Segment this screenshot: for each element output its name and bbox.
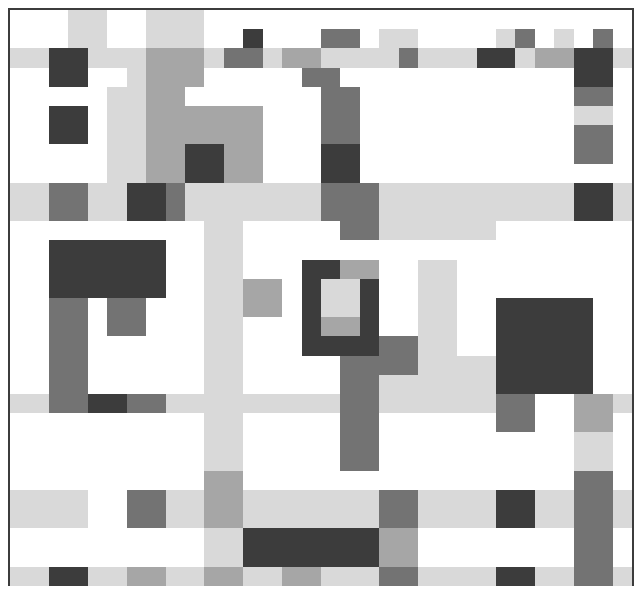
heatmap-cell xyxy=(282,125,301,144)
heatmap-cell xyxy=(321,240,340,259)
heatmap-cell xyxy=(515,394,534,413)
heatmap-cell xyxy=(302,432,321,451)
heatmap-cell xyxy=(68,548,87,567)
heatmap-cell xyxy=(554,144,573,163)
heatmap-cell xyxy=(457,394,476,413)
heatmap-cell xyxy=(185,183,204,202)
heatmap-cell xyxy=(418,29,437,48)
heatmap-cell xyxy=(243,356,262,375)
heatmap-cell xyxy=(146,240,165,259)
heatmap-cell xyxy=(10,144,29,163)
heatmap-cell xyxy=(204,567,223,586)
heatmap-cell xyxy=(204,202,223,221)
heatmap-cell xyxy=(457,490,476,509)
heatmap-cell xyxy=(574,528,593,547)
heatmap-cell xyxy=(360,298,379,317)
heatmap-cell xyxy=(302,144,321,163)
heatmap-cell xyxy=(302,125,321,144)
heatmap-cell xyxy=(243,144,262,163)
heatmap-cell xyxy=(593,106,612,125)
heatmap-cell xyxy=(321,567,340,586)
heatmap-cell xyxy=(127,125,146,144)
heatmap-cell xyxy=(321,279,340,298)
heatmap-cell xyxy=(29,452,48,471)
heatmap-cell xyxy=(68,356,87,375)
heatmap-cell xyxy=(10,356,29,375)
heatmap-cell xyxy=(185,221,204,240)
heatmap-cell xyxy=(88,106,107,125)
heatmap-cell xyxy=(340,29,359,48)
heatmap-cell xyxy=(282,317,301,336)
heatmap-cell xyxy=(477,279,496,298)
heatmap-cell xyxy=(379,567,398,586)
heatmap-cell xyxy=(185,528,204,547)
heatmap-cell xyxy=(321,48,340,67)
heatmap-cell xyxy=(574,336,593,355)
heatmap-cell xyxy=(515,567,534,586)
heatmap-cell xyxy=(185,509,204,528)
heatmap-cell xyxy=(438,10,457,29)
heatmap-cell xyxy=(243,490,262,509)
heatmap-cell xyxy=(282,68,301,87)
heatmap-cell xyxy=(282,164,301,183)
heatmap-cell xyxy=(10,528,29,547)
heatmap-cell xyxy=(515,317,534,336)
heatmap-cell xyxy=(107,279,126,298)
heatmap-cell xyxy=(379,548,398,567)
heatmap-cell xyxy=(418,87,437,106)
heatmap-cell xyxy=(379,336,398,355)
heatmap-cell xyxy=(574,260,593,279)
heatmap-cell xyxy=(88,336,107,355)
heatmap-cell xyxy=(613,298,632,317)
heatmap-cell xyxy=(613,509,632,528)
heatmap-cell xyxy=(477,509,496,528)
heatmap-cell xyxy=(146,10,165,29)
heatmap-cell xyxy=(127,336,146,355)
heatmap-cell xyxy=(613,106,632,125)
heatmap-cell xyxy=(496,356,515,375)
heatmap-cell xyxy=(204,490,223,509)
heatmap-cell xyxy=(496,183,515,202)
heatmap-cell xyxy=(166,356,185,375)
heatmap-cell xyxy=(88,68,107,87)
heatmap-cell xyxy=(302,298,321,317)
heatmap-cell xyxy=(243,413,262,432)
heatmap-cell xyxy=(243,240,262,259)
heatmap-cell xyxy=(360,490,379,509)
heatmap-cell xyxy=(438,490,457,509)
heatmap-cell xyxy=(88,48,107,67)
heatmap-cell xyxy=(515,221,534,240)
heatmap-cell xyxy=(593,260,612,279)
heatmap-cell xyxy=(204,452,223,471)
heatmap-cell xyxy=(243,317,262,336)
heatmap-cell xyxy=(438,471,457,490)
heatmap-cell xyxy=(399,509,418,528)
heatmap-cell xyxy=(613,125,632,144)
heatmap-cell xyxy=(574,221,593,240)
heatmap-cell xyxy=(457,260,476,279)
heatmap-cell xyxy=(593,471,612,490)
heatmap-cell xyxy=(340,471,359,490)
heatmap-cell xyxy=(535,183,554,202)
heatmap-cell xyxy=(282,279,301,298)
heatmap-cell xyxy=(68,375,87,394)
heatmap-cell xyxy=(418,490,437,509)
heatmap-cell xyxy=(204,87,223,106)
heatmap-cell xyxy=(360,336,379,355)
heatmap-cell xyxy=(204,298,223,317)
heatmap-cell xyxy=(166,68,185,87)
heatmap-cell xyxy=(243,48,262,67)
heatmap-cell xyxy=(535,317,554,336)
heatmap-cell xyxy=(535,567,554,586)
heatmap-cell xyxy=(554,317,573,336)
heatmap-cell xyxy=(282,240,301,259)
heatmap-cell xyxy=(204,240,223,259)
heatmap-cell xyxy=(146,298,165,317)
heatmap-cell xyxy=(418,144,437,163)
heatmap-cell xyxy=(49,375,68,394)
heatmap-cell xyxy=(496,144,515,163)
heatmap-cell xyxy=(593,144,612,163)
heatmap-cell xyxy=(593,279,612,298)
heatmap-cell xyxy=(29,164,48,183)
heatmap-cell xyxy=(535,471,554,490)
